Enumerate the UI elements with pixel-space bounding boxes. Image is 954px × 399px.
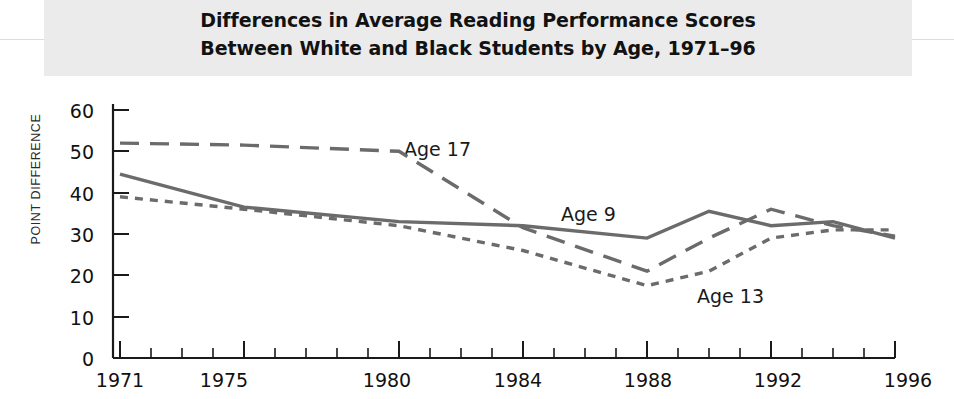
x-axis-major-ticks	[120, 341, 895, 358]
y-axis-ticks	[113, 110, 129, 317]
chart-plot-area: POINT DIFFERENCE 0 10 20 30 40 50 60 197…	[0, 0, 954, 399]
series-line-age-17	[120, 143, 895, 271]
axis-lines	[113, 104, 895, 358]
x-axis-minor-ticks	[151, 348, 864, 358]
data-series-group	[120, 143, 895, 286]
chart-page: Differences in Average Reading Performan…	[0, 0, 954, 399]
series-line-age-9	[120, 174, 895, 238]
chart-svg	[0, 0, 954, 399]
